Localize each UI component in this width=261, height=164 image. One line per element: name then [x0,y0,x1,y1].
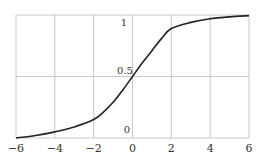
x-axis-tick-labels: −6−4−20246 [8,142,253,155]
x-tick-label: −2 [86,142,102,155]
x-tick-label: 0 [129,142,136,155]
x-tick-label: −4 [47,142,63,155]
sigmoid-chart: −6−4−20246 00.51 [0,0,261,164]
x-tick-label: −6 [8,142,24,155]
x-tick-label: 4 [207,142,214,155]
y-tick-label: 1 [121,17,127,28]
y-tick-label: 0 [124,124,130,135]
y-tick-label: 0.5 [117,65,133,76]
x-tick-label: 2 [168,142,175,155]
x-tick-label: 6 [246,142,253,155]
